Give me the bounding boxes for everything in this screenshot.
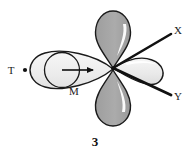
label-x: X <box>174 24 182 36</box>
orbital-diagram: T M X Y 3 <box>0 0 190 155</box>
label-y: Y <box>174 90 182 102</box>
center-vertex <box>111 67 115 71</box>
terminal-dot <box>23 68 27 72</box>
label-t: T <box>8 64 15 76</box>
figure-caption: 3 <box>92 134 99 149</box>
label-m: M <box>69 85 79 97</box>
